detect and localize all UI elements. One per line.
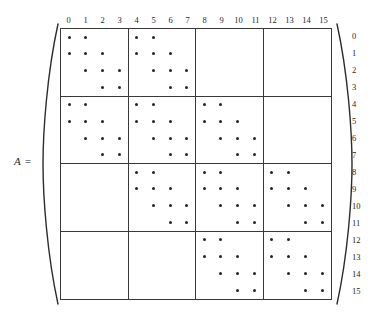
matrix-cell xyxy=(94,181,111,198)
nonzero-entry-marker xyxy=(101,120,104,123)
row-header: 11 xyxy=(352,215,374,232)
matrix-cell xyxy=(213,214,230,231)
matrix-cell xyxy=(129,146,146,163)
matrix-block xyxy=(264,29,332,97)
matrix-cell xyxy=(264,79,281,96)
matrix-cell xyxy=(264,232,281,249)
nonzero-entry-marker xyxy=(270,255,273,258)
row-header: 0 xyxy=(352,28,374,45)
nonzero-entry-marker xyxy=(169,52,172,55)
matrix-cell xyxy=(78,29,95,46)
matrix-cell xyxy=(78,62,95,79)
matrix-cell xyxy=(314,282,331,299)
column-header: 14 xyxy=(298,13,315,27)
nonzero-entry-marker xyxy=(169,120,172,123)
nonzero-entry-marker xyxy=(68,52,71,55)
matrix-cell xyxy=(229,248,246,265)
matrix-cell xyxy=(129,97,146,114)
matrix-cell xyxy=(178,29,195,46)
matrix-cell xyxy=(111,197,128,214)
matrix-cell xyxy=(280,181,297,198)
nonzero-entry-marker xyxy=(152,69,155,72)
matrix-cell xyxy=(162,113,179,130)
matrix-cell xyxy=(246,164,263,181)
matrix-cell xyxy=(297,146,314,163)
matrix-cell xyxy=(297,181,314,198)
matrix-cell xyxy=(61,214,78,231)
matrix-cell xyxy=(297,113,314,130)
matrix-cell xyxy=(145,62,162,79)
matrix-sparsity-figure: A = 0123456789101112131415 0123456789101… xyxy=(0,0,391,313)
nonzero-entry-marker xyxy=(236,221,239,224)
matrix-cell xyxy=(196,197,213,214)
matrix-cell xyxy=(145,282,162,299)
nonzero-entry-marker xyxy=(203,238,206,241)
matrix-cell xyxy=(297,62,314,79)
matrix-cell xyxy=(111,214,128,231)
nonzero-entry-marker xyxy=(169,204,172,207)
nonzero-entry-marker xyxy=(304,187,307,190)
matrix-cell xyxy=(229,214,246,231)
row-header: 13 xyxy=(352,249,374,266)
matrix-cell xyxy=(61,248,78,265)
matrix-cell xyxy=(78,113,95,130)
nonzero-entry-marker xyxy=(287,171,290,174)
matrix-cell xyxy=(129,265,146,282)
matrix-cell xyxy=(264,146,281,163)
matrix-cell xyxy=(213,29,230,46)
matrix-cell xyxy=(213,181,230,198)
matrix-cell xyxy=(280,232,297,249)
nonzero-entry-marker xyxy=(135,171,138,174)
matrix-cell xyxy=(280,113,297,130)
nonzero-entry-marker xyxy=(185,137,188,140)
matrix-cell xyxy=(162,79,179,96)
nonzero-entry-marker xyxy=(203,103,206,106)
matrix-cell xyxy=(229,29,246,46)
matrix-cell xyxy=(111,29,128,46)
matrix-cell xyxy=(213,282,230,299)
nonzero-entry-marker xyxy=(203,255,206,258)
matrix-cell xyxy=(264,248,281,265)
matrix-cell xyxy=(178,130,195,147)
matrix-cell xyxy=(94,214,111,231)
nonzero-entry-marker xyxy=(101,52,104,55)
row-header: 15 xyxy=(352,283,374,300)
row-header: 10 xyxy=(352,198,374,215)
nonzero-entry-marker xyxy=(152,103,155,106)
nonzero-entry-marker xyxy=(118,153,121,156)
row-header: 14 xyxy=(352,266,374,283)
column-header: 5 xyxy=(145,13,162,27)
nonzero-entry-marker xyxy=(287,238,290,241)
column-header: 2 xyxy=(94,13,111,27)
nonzero-entry-marker xyxy=(169,153,172,156)
matrix-cell xyxy=(229,113,246,130)
nonzero-entry-marker xyxy=(253,221,256,224)
matrix-cell xyxy=(213,248,230,265)
nonzero-entry-marker xyxy=(101,137,104,140)
matrix-cell xyxy=(264,130,281,147)
nonzero-entry-marker xyxy=(169,69,172,72)
nonzero-entry-marker xyxy=(304,289,307,292)
matrix-block xyxy=(196,164,264,232)
matrix-cell xyxy=(178,197,195,214)
column-header: 7 xyxy=(179,13,196,27)
matrix-cell xyxy=(61,181,78,198)
matrix-cell xyxy=(246,248,263,265)
matrix-cell xyxy=(178,97,195,114)
matrix-cell xyxy=(145,97,162,114)
nonzero-entry-marker xyxy=(219,204,222,207)
matrix-cell xyxy=(129,130,146,147)
matrix-cell xyxy=(145,130,162,147)
column-header: 13 xyxy=(281,13,298,27)
matrix-cell xyxy=(162,146,179,163)
matrix-cell xyxy=(145,164,162,181)
matrix-cell xyxy=(213,164,230,181)
nonzero-entry-marker xyxy=(84,137,87,140)
matrix-cell xyxy=(229,62,246,79)
nonzero-entry-marker xyxy=(236,120,239,123)
matrix-cell xyxy=(280,146,297,163)
nonzero-entry-marker xyxy=(101,153,104,156)
matrix-cell xyxy=(78,97,95,114)
matrix-cell xyxy=(145,214,162,231)
matrix-cell xyxy=(280,29,297,46)
